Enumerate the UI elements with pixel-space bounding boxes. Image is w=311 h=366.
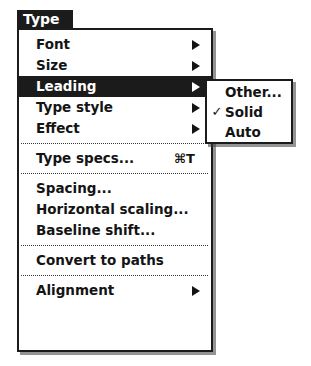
menu-item-convert-to-paths[interactable]: Convert to paths [19,250,211,271]
submenu-item-auto[interactable]: ✓ Auto [207,122,291,142]
menu-item-leading[interactable]: Leading [19,76,211,97]
submenu-item-other[interactable]: ✓ Other... [207,82,291,102]
menu-separator [21,143,209,144]
menu-item-spacing[interactable]: Spacing... [19,178,211,199]
menu-item-label: Effect [36,118,80,139]
menu-title-type[interactable]: Type [17,10,73,29]
menu-item-type-specs[interactable]: Type specs... ⌘T [19,148,211,169]
type-menu-panel: Font Size Leading Type style Effect Type… [17,28,213,352]
menu-item-effect[interactable]: Effect [19,118,211,139]
submenu-arrow-icon [192,124,200,134]
menu-item-label: Horizontal scaling... [36,199,189,220]
menu-item-label: Spacing... [36,178,112,199]
submenu-item-solid[interactable]: ✓ Solid [207,102,291,122]
menu-item-horizontal-scaling[interactable]: Horizontal scaling... [19,199,211,220]
menu-item-label: Leading [36,76,96,97]
menu-item-baseline-shift[interactable]: Baseline shift... [19,220,211,241]
menu-item-label: Baseline shift... [36,220,155,241]
menu-item-label: Alignment [36,280,114,301]
menu-title-label: Type [23,11,60,27]
menu-item-label: Size [36,55,67,76]
menu-item-font[interactable]: Font [19,34,211,55]
menu-separator [21,275,209,276]
checkmark-icon: ✓ [211,102,223,122]
submenu-arrow-icon [192,286,200,296]
menu-item-label: Convert to paths [36,250,164,271]
menu-item-label: Font [36,34,70,55]
submenu-arrow-icon [192,82,200,92]
menu-item-label: Type specs... [36,148,134,169]
menu-item-shortcut: ⌘T [174,148,195,169]
menu-item-label: Type style [36,97,113,118]
submenu-arrow-icon [192,61,200,71]
menu-item-alignment[interactable]: Alignment [19,280,211,301]
menu-item-size[interactable]: Size [19,55,211,76]
submenu-item-label: Solid [225,104,263,120]
menu-separator [21,173,209,174]
submenu-arrow-icon [192,103,200,113]
submenu-arrow-icon [192,40,200,50]
submenu-item-label: Other... [225,84,282,100]
leading-submenu-panel: ✓ Other... ✓ Solid ✓ Auto [205,79,293,144]
submenu-item-label: Auto [225,124,261,140]
menu-item-type-style[interactable]: Type style [19,97,211,118]
menu-separator [21,245,209,246]
type-menu-items: Font Size Leading Type style Effect Type… [19,30,211,350]
